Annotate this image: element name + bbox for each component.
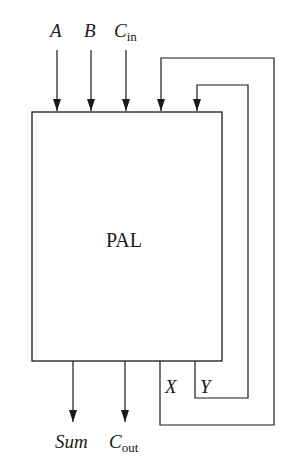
output-label-cout: Cout <box>109 432 138 451</box>
diagram-lines <box>0 0 292 469</box>
input-label-cin: Cin <box>114 21 137 40</box>
feedback-x-line <box>160 58 274 425</box>
output-label-sum: Sum <box>55 432 88 451</box>
input-label-b: B <box>84 21 96 40</box>
feedback-label-x: X <box>165 377 177 396</box>
input-label-a: A <box>50 21 62 40</box>
pal-label: PAL <box>106 230 142 250</box>
feedback-label-y: Y <box>200 377 211 396</box>
pal-adder-diagram: A B Cin PAL X Y Sum Cout <box>0 0 292 469</box>
